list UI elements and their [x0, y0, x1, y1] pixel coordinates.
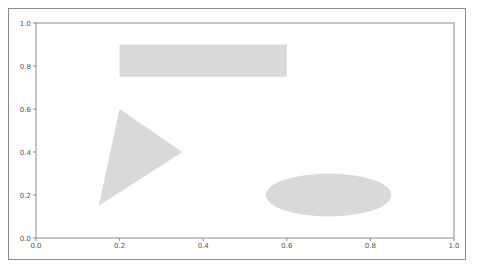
y-tick-label: 0.2	[20, 192, 31, 200]
y-tick-label: 0.6	[20, 106, 32, 114]
rectangle-shape	[120, 45, 287, 77]
x-axis-ticks: 0.00.20.40.60.81.0	[30, 238, 459, 250]
y-tick-label: 0.0	[20, 235, 31, 243]
x-tick-label: 0.2	[114, 242, 125, 250]
y-tick-label: 1.0	[20, 20, 31, 28]
ellipse-shape	[266, 174, 391, 217]
x-tick-label: 0.6	[281, 242, 293, 250]
y-tick-label: 0.8	[20, 63, 31, 71]
y-axis-ticks: 0.00.20.40.60.81.0	[20, 20, 36, 243]
triangle-shape	[99, 109, 183, 206]
x-tick-label: 0.4	[198, 242, 210, 250]
x-tick-label: 0.0	[30, 242, 41, 250]
x-tick-label: 1.0	[448, 242, 459, 250]
y-tick-label: 0.4	[20, 149, 32, 157]
x-tick-label: 0.8	[365, 242, 376, 250]
plot-canvas: 0.00.20.40.60.81.0 0.00.20.40.60.81.0	[0, 0, 478, 266]
shapes-layer	[99, 45, 392, 217]
